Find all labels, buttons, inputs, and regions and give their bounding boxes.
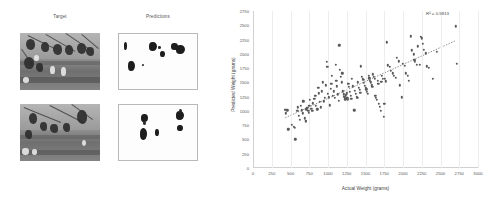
x-tick-label: 1250 [342,171,351,176]
x-tick-label: 500 [287,171,294,176]
column-header-predictions: Predictions [118,14,198,19]
y-tick-label: 1000 [223,108,249,113]
y-tick-label: 2500 [223,23,249,28]
x-tick-label: 2500 [436,171,445,176]
gridline-vertical [478,11,479,168]
y-tick-label: 1250 [223,94,249,99]
x-tick-label: 1500 [361,171,370,176]
y-tick-label: 750 [223,123,249,128]
gridline-vertical [291,11,292,168]
y-tick-label: 2000 [223,51,249,56]
gridline-vertical [384,11,385,168]
x-tick-label: 0 [252,171,254,176]
y-tick-label: 1500 [223,80,249,85]
plot-area [253,11,478,168]
x-tick-label: 1000 [323,171,332,176]
target-image-row-2 [20,104,100,161]
x-axis-title: Actual Weight (grams) [253,186,478,191]
gridline-vertical [272,11,273,168]
x-tick-label: 2750 [455,171,464,176]
x-tick-label: 250 [268,171,275,176]
gridline-vertical [422,11,423,168]
gridline-vertical [459,11,460,168]
target-image-row-1 [20,33,100,90]
gridline-vertical [347,11,348,168]
gridline-vertical [328,11,329,168]
gridline-vertical [403,11,404,168]
prediction-mask-row-2 [118,104,198,161]
gridline-vertical [309,11,310,168]
x-tick-label: 2250 [417,171,426,176]
y-tick-label: 0 [223,166,249,171]
x-tick-label: 750 [306,171,313,176]
r-squared-annotation: R² = 0.5813 [426,11,449,16]
gridline-vertical [441,11,442,168]
x-tick-label: 1750 [380,171,389,176]
column-header-target: Target [20,14,100,19]
y-tick-label: 500 [223,137,249,142]
y-tick-label: 2750 [223,9,249,14]
y-tick-label: 250 [223,151,249,156]
scatter-chart: R² = 0.5813 Actual Weight (grams) Predic… [215,0,494,202]
x-tick-label: 3000 [473,171,482,176]
qualitative-results-panel: Target Predictions [0,0,215,202]
x-tick-label: 2000 [398,171,407,176]
y-tick-label: 1750 [223,66,249,71]
prediction-mask-row-1 [118,33,198,90]
figure-panel: Target Predictions [0,0,494,202]
y-tick-label: 2250 [223,37,249,42]
